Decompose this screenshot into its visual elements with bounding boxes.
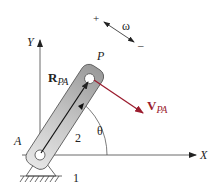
y-axis-label: Y bbox=[27, 36, 34, 48]
ground-number-label: 1 bbox=[73, 172, 79, 184]
link-number-label: 2 bbox=[75, 132, 81, 144]
point-a-label: A bbox=[14, 135, 21, 147]
v-pa-label: VPA bbox=[147, 99, 167, 112]
r-pa-label: RPA bbox=[48, 71, 68, 84]
v-pa-main: V bbox=[147, 98, 156, 113]
v-pa-vector bbox=[94, 80, 143, 113]
omega-plus-label: + bbox=[93, 13, 99, 24]
r-pa-main: R bbox=[48, 70, 57, 85]
point-p-label: P bbox=[97, 50, 104, 62]
v-pa-sub: PA bbox=[156, 104, 167, 115]
omega-minus-label: – bbox=[138, 40, 144, 51]
r-pa-sub: PA bbox=[57, 76, 68, 87]
x-axis-label: X bbox=[200, 149, 207, 161]
link-diagram bbox=[0, 0, 221, 189]
omega-label: ω bbox=[122, 20, 130, 32]
theta-label: θ bbox=[97, 125, 103, 137]
